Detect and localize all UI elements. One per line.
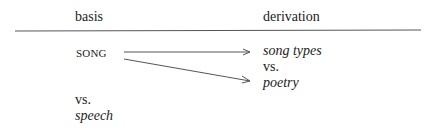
basis-vs: vs. bbox=[75, 92, 91, 108]
derivation-song-types: song types bbox=[263, 43, 322, 59]
basis-term-song: SONG bbox=[76, 45, 107, 61]
derivation-poetry: poetry bbox=[263, 75, 299, 91]
arrow-to-poetry bbox=[124, 59, 250, 83]
diagram-lines bbox=[0, 0, 430, 130]
header-rule bbox=[15, 30, 421, 31]
arrow-to-song-types bbox=[124, 49, 250, 55]
basis-contrast-speech: speech bbox=[75, 108, 113, 124]
derivation-vs: vs. bbox=[263, 59, 279, 75]
